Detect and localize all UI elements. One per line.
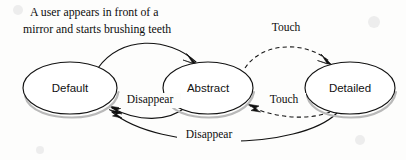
- edge-label-touch-bottom: Touch: [270, 93, 299, 105]
- state-node-abstract[interactable]: Abstract: [163, 62, 254, 118]
- edge-label-touch-top-group: Touch: [264, 20, 308, 35]
- transition-default-to-abstract: [98, 43, 197, 68]
- arrowhead-detailed-abstract: [247, 104, 261, 112]
- edge-label-disappear-middle: Disappear: [127, 93, 174, 106]
- arrowhead-abstract-detailed: [318, 54, 333, 65]
- state-diagram-figure: A user appears in front of a mirror and …: [0, 0, 406, 160]
- transition-abstract-to-detailed: [245, 47, 332, 68]
- edge-label-disappear-middle-group: Disappear: [119, 93, 181, 108]
- state-label-detailed: Detailed: [329, 82, 371, 94]
- state-label-default: Default: [52, 82, 89, 94]
- caption-line-2: mirror and starts brushing teeth: [23, 22, 171, 36]
- caption: A user appears in front of a mirror and …: [23, 5, 171, 36]
- state-node-detailed[interactable]: Detailed: [305, 62, 396, 118]
- edge-label-touch-top: Touch: [272, 21, 301, 33]
- diagram-canvas: A user appears in front of a mirror and …: [0, 0, 406, 160]
- edge-label-disappear-bottom: Disappear: [186, 128, 233, 141]
- edge-label-touch-bottom-group: Touch: [262, 93, 306, 108]
- edge-label-disappear-bottom-group: Disappear: [177, 128, 241, 143]
- edge-path-default-abstract: [98, 43, 196, 68]
- caption-line-1: A user appears in front of a: [30, 5, 159, 19]
- state-node-default[interactable]: Default: [23, 62, 119, 118]
- edge-path-abstract-detailed: [245, 47, 330, 68]
- state-label-abstract: Abstract: [187, 82, 230, 94]
